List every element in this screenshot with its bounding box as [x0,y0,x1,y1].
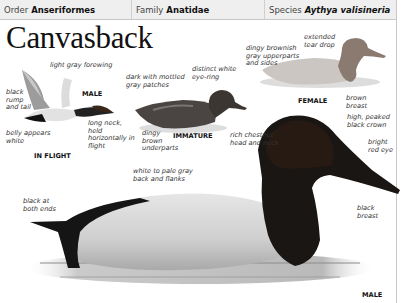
caption-male: MALE [362,291,382,299]
label-red-eye: bright red eye [368,139,394,154]
label-upperparts: dingy brownish gray upperparts and sides [246,45,304,68]
label-back-flanks: white to pale gray back and flanks [133,168,209,183]
label-black-rump: black rump and tail [6,89,32,112]
caption-female: FEMALE [298,97,327,105]
caption-immature: IMMATURE [173,132,213,140]
label-black-breast: black breast [357,205,387,220]
label-chestnut-head: rich chestnut head and neck [230,132,280,147]
label-mottled-patches: dark with mottled gray patches [126,74,188,89]
label-tear-drop: extended tear drop [304,34,344,49]
label-belly-white: belly appears white [6,130,56,145]
label-brown-breast: brown breast [346,95,376,110]
caption-in-flight: IN FLIGHT [34,152,71,160]
label-black-both-ends: black at both ends [23,198,61,213]
label-peaked-crown: high, peaked black crown [347,114,397,129]
caption-flight-male: MALE [82,90,102,98]
label-long-neck: long neck, held horizontally in flight [88,120,136,150]
field-guide-page: Order Anseriformes Family Anatidae Speci… [0,0,403,303]
label-eye-ring: distinct white eye-ring [192,66,242,81]
label-light-gray-forewing: light gray forewing [50,62,112,70]
